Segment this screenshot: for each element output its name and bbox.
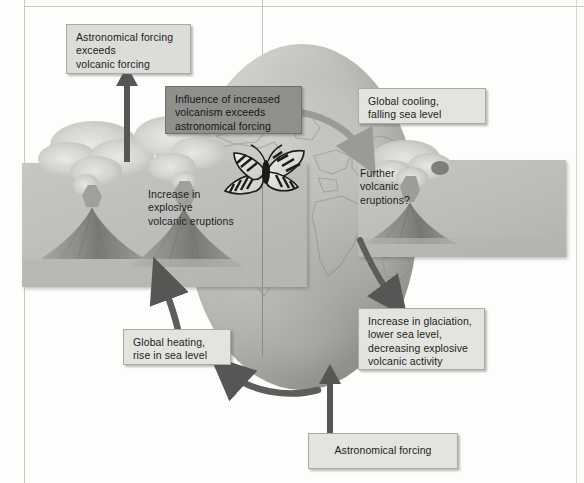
text-line: volcanic forcing	[76, 58, 182, 71]
text-line: Increase in glaciation,	[368, 315, 476, 328]
text-line: volcanic activity	[368, 355, 476, 368]
figure-page: Astronomical forcing exceeds volcanic fo…	[0, 0, 584, 483]
text-line: Increase in	[148, 188, 266, 201]
text-line: Global heating,	[133, 336, 222, 349]
text-line: decreasing explosive	[368, 342, 476, 355]
text-line: Astronomical forcing	[334, 444, 431, 457]
text-line: rise in sea level	[133, 349, 222, 362]
text-line: volcanic eruptions	[148, 215, 266, 228]
text-line: volcanism exceeds	[175, 106, 293, 119]
label-increase-in-explosive-volcanic-eruptions: Increase in explosive volcanic eruptions	[148, 188, 266, 236]
text-line: Global cooling,	[368, 95, 477, 108]
box-astronomical-exceeds-volcanic: Astronomical forcing exceeds volcanic fo…	[66, 24, 191, 74]
text-line: Further	[360, 167, 444, 180]
text-line: lower sea level,	[368, 328, 476, 341]
text-line: volcanic	[360, 180, 444, 193]
text-line: falling sea level	[368, 108, 477, 121]
box-astronomical-forcing: Astronomical forcing	[308, 433, 458, 469]
text-line: explosive	[148, 201, 266, 214]
box-increase-in-glaciation: Increase in glaciation, lower sea level,…	[358, 308, 485, 370]
label-further-volcanic-eruptions: Further volcanic eruptions?	[360, 167, 444, 215]
page-frame-top-rule	[24, 6, 584, 7]
arrow-global-heating-to-panel	[162, 280, 178, 330]
text-line: Influence of increased	[175, 93, 293, 106]
text-line: eruptions?	[360, 194, 444, 207]
box-global-heating-rise-in-sea-level: Global heating, rise in sea level	[123, 329, 231, 365]
box-global-cooling-falling-sea-level: Global cooling, falling sea level	[358, 88, 486, 124]
text-line: exceeds	[76, 44, 182, 57]
page-frame-right-rule	[576, 0, 577, 483]
text-line: Astronomical forcing	[76, 31, 182, 44]
box-influence-of-increased-volcanism: Influence of increased volcanism exceeds…	[165, 86, 302, 134]
text-line: astronomical forcing	[175, 120, 293, 133]
